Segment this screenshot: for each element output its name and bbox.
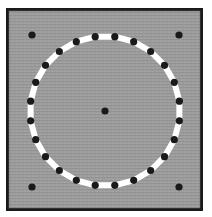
polygon-vertex-5 (171, 79, 178, 86)
polygon-vertex-23 (73, 38, 80, 45)
corner-point-top-right (175, 31, 182, 38)
polygon-vertex-7 (176, 117, 183, 124)
polygon-vertex-8 (171, 136, 178, 143)
polygon-vertex-18 (27, 117, 34, 124)
figure-container (0, 0, 212, 217)
polygon-vertex-4 (161, 62, 168, 69)
polygon-vertex-21 (42, 62, 49, 69)
polygon-vertex-20 (32, 79, 39, 86)
corner-point-top-left (28, 31, 35, 38)
polygon-vertex-16 (42, 153, 49, 160)
center-point (101, 107, 108, 114)
polygon-vertex-9 (161, 153, 168, 160)
corner-point-bottom-left (28, 183, 35, 190)
polygon-vertex-2 (130, 38, 137, 45)
polygon-vertex-12 (111, 182, 118, 189)
polygon-vertex-11 (130, 177, 137, 184)
polygon-vertex-17 (32, 136, 39, 143)
polygon-vertex-19 (27, 98, 34, 105)
corner-point-bottom-right (175, 183, 182, 190)
polygon-vertex-22 (56, 48, 63, 55)
polygon-vertex-10 (147, 167, 154, 174)
polygon-vertex-3 (147, 48, 154, 55)
polygon-vertex-15 (56, 167, 63, 174)
polygon-vertex-13 (92, 182, 99, 189)
polygon-vertex-24 (92, 33, 99, 40)
geometry-figure (0, 0, 212, 217)
polygon-vertex-14 (73, 177, 80, 184)
polygon-vertex-6 (176, 98, 183, 105)
polygon-vertex-1 (111, 33, 118, 40)
